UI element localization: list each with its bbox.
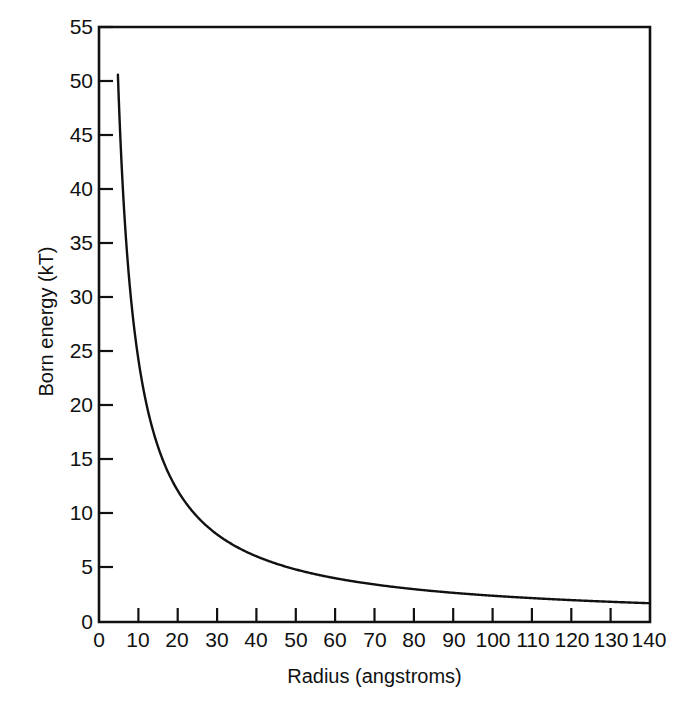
x-tick-label-70: 70: [355, 628, 395, 652]
x-tick-label-10: 10: [118, 628, 158, 652]
x-axis-ticks: [138, 608, 610, 622]
y-tick-label-10: 10: [49, 501, 93, 525]
x-tick-label-50: 50: [276, 628, 316, 652]
x-tick-label-60: 60: [315, 628, 355, 652]
x-tick-label-80: 80: [394, 628, 434, 652]
x-tick-label-40: 40: [236, 628, 276, 652]
x-tick-label-30: 30: [197, 628, 237, 652]
y-tick-label-55: 55: [49, 15, 93, 39]
chart-svg: [0, 0, 682, 715]
x-tick-label-20: 20: [157, 628, 197, 652]
y-axis-title: Born energy (kT): [35, 192, 58, 452]
y-tick-label-5: 5: [49, 555, 93, 579]
x-axis-title: Radius (angstroms): [99, 665, 650, 688]
x-tick-label-0: 0: [79, 628, 119, 652]
x-tick-label-140: 140: [624, 628, 674, 652]
figure-container: 55 50 45 40 35 30 25 20 15 10 5 0 0 10 2…: [0, 0, 682, 715]
y-tick-label-50: 50: [49, 69, 93, 93]
plot-frame: [99, 27, 650, 622]
y-axis-ticks: [99, 27, 113, 567]
born-energy-curve: [118, 75, 650, 604]
y-tick-label-45: 45: [49, 123, 93, 147]
